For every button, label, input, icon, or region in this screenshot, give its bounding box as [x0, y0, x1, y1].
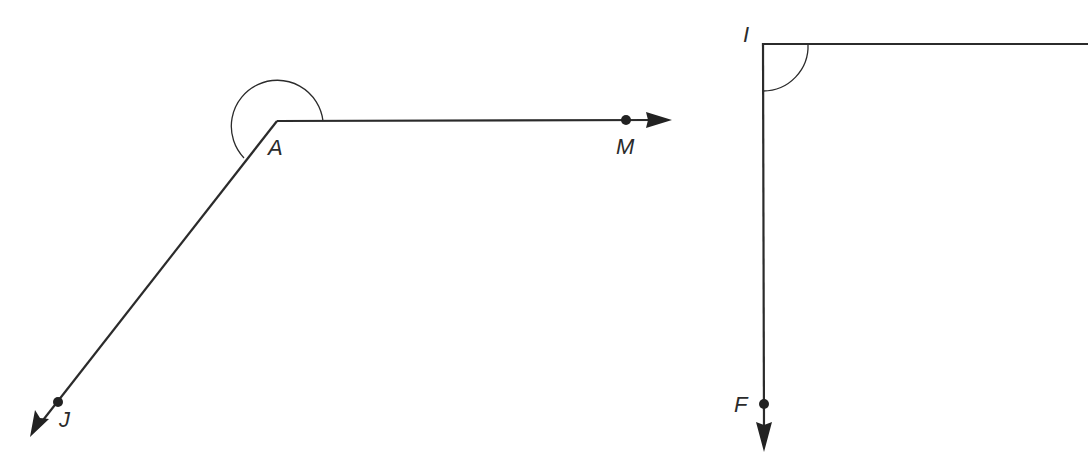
label-f: F: [734, 392, 749, 417]
ray-if: [763, 43, 764, 430]
ray-am: [277, 120, 656, 121]
point-j: [53, 397, 63, 407]
arrowhead-m-icon: [646, 112, 672, 128]
point-m: [621, 115, 631, 125]
angle-jam-figure: A M J: [30, 80, 672, 437]
label-m: M: [616, 134, 635, 159]
arrowhead-j-icon: [30, 410, 49, 437]
label-i: I: [743, 22, 749, 47]
geometry-diagram: A M J I F: [0, 0, 1088, 474]
angle-i-arc: [763, 44, 808, 91]
point-f: [759, 399, 769, 409]
label-a: A: [266, 135, 283, 160]
arrowhead-f-icon: [756, 422, 772, 452]
ray-aj: [40, 121, 277, 424]
angle-fi-figure: I F: [734, 22, 1088, 452]
label-j: J: [58, 407, 71, 432]
